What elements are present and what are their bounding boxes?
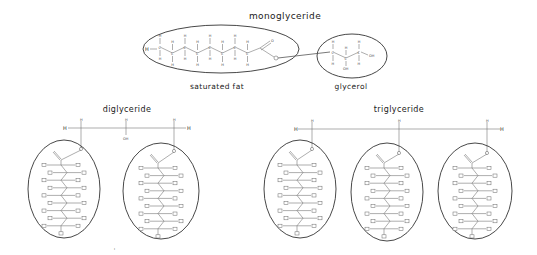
hydrogen-box — [139, 197, 143, 200]
backbone-h-left: H — [63, 125, 67, 131]
hydrogen-box — [284, 186, 288, 189]
hydrogen-box — [365, 197, 369, 200]
glycerol-label: glycerol — [335, 82, 368, 91]
hydrogen-box — [82, 186, 86, 189]
monoglyceride-title: monoglyceride — [249, 11, 321, 21]
hydrogen-box — [487, 166, 491, 169]
hydrogen-box — [453, 166, 457, 169]
glyceride-diagram: monoglyceride HCHHCHHCHHCHHCHHCHHCHHCHHO… — [0, 0, 537, 255]
hydrogen-box — [399, 197, 403, 200]
hydrogen-box — [459, 204, 463, 207]
hydrogen-box — [399, 166, 403, 169]
hydrogen-box — [82, 217, 86, 220]
hydrogen-box — [453, 197, 457, 200]
atom-h: H — [184, 34, 187, 38]
hydrogen-box — [42, 209, 46, 212]
triglyceride-title: triglyceride — [374, 105, 424, 114]
hydrogen-box — [453, 182, 457, 185]
atom-o: O — [271, 39, 274, 43]
atom-h: H — [171, 63, 174, 67]
fatty-acid-chain — [123, 143, 199, 239]
atom-h: H — [171, 40, 174, 44]
hydrogen-box — [76, 224, 80, 227]
backbone-h-top: H — [80, 118, 83, 122]
hydrogen-box — [48, 217, 52, 220]
hydrogen-box — [48, 201, 52, 204]
hydrogen-box — [318, 171, 322, 174]
hydrogen-box — [42, 194, 46, 197]
backbone-h-top: H — [173, 118, 176, 122]
stray-mark: ı — [114, 247, 115, 251]
atom-h: H — [246, 40, 249, 44]
hydrogen-box — [48, 171, 52, 174]
diglyceride-title: diglyceride — [103, 105, 152, 114]
atom-h: H — [358, 62, 361, 66]
hydrogen-box — [399, 227, 403, 230]
hydrogen-box — [179, 220, 183, 223]
backbone-oh: OH — [123, 137, 129, 141]
atom-h: H — [159, 34, 162, 38]
backbone-h-top: H — [125, 118, 128, 122]
backbone-h-top: H — [486, 119, 489, 123]
hydrogen-box — [459, 220, 463, 223]
hydrogen-box — [295, 232, 299, 235]
hydrogen-box — [173, 212, 177, 215]
hydrogen-box — [48, 186, 52, 189]
atom-h: H — [196, 40, 199, 44]
atom-c: C — [221, 52, 224, 56]
hydrogen-box — [405, 189, 409, 192]
atom-h: H — [196, 63, 199, 67]
atom-oh: OH — [369, 54, 375, 58]
hydrogen-box — [405, 174, 409, 177]
hydrogen-box — [284, 201, 288, 204]
atom-h: H — [345, 46, 348, 50]
hydrogen-box — [284, 171, 288, 174]
hydrogen-box — [405, 220, 409, 223]
triglyceride-group: triglyceride H H H H H — [264, 105, 512, 241]
hydrogen-box — [82, 201, 86, 204]
monoglyceride-group: monoglyceride HCHHCHHCHHCHHCHHCHHCHHCHHO… — [143, 11, 387, 91]
hydrogen-box — [365, 182, 369, 185]
backbone-h-top: H — [398, 119, 401, 123]
hydrogen-box — [42, 163, 46, 166]
diglyceride-group: diglyceride H H OH H H H ı — [28, 105, 199, 251]
backbone-h-top: H — [311, 119, 314, 123]
saturated-fat-chain: HCHHCHHCHHCHHCHHCHHCHHCHHO — [145, 34, 278, 67]
atom-h: H — [234, 57, 237, 61]
hydrogen-box — [278, 179, 282, 182]
atom-h: H — [145, 46, 149, 52]
atom-c: C — [345, 57, 348, 61]
hydrogen-box — [487, 182, 491, 185]
hydrogen-box — [76, 194, 80, 197]
hydrogen-box — [405, 204, 409, 207]
hydrogen-box — [487, 212, 491, 215]
diglyceride-chains — [28, 140, 199, 239]
hydrogen-box — [459, 189, 463, 192]
hydrogen-box — [82, 171, 86, 174]
hydrogen-box — [76, 163, 80, 166]
fatty-acid-chain — [264, 140, 336, 238]
hydrogen-box — [173, 166, 177, 169]
hydrogen-box — [365, 227, 369, 230]
atom-h: H — [159, 57, 162, 61]
hydrogen-box — [278, 194, 282, 197]
hydrogen-box — [145, 204, 149, 207]
backbone-h-right: H — [187, 125, 191, 131]
hydrogen-box — [453, 212, 457, 215]
hydrogen-box — [371, 204, 375, 207]
backbone-h-left: H — [294, 126, 298, 132]
fatty-acid-ellipse — [351, 143, 423, 241]
hydrogen-box — [371, 189, 375, 192]
atom-h: H — [246, 63, 249, 67]
hydrogen-box — [173, 197, 177, 200]
triglyceride-chains — [264, 140, 512, 241]
hydrogen-box — [487, 227, 491, 230]
hydrogen-box — [278, 209, 282, 212]
hydrogen-box — [139, 212, 143, 215]
hydrogen-box — [493, 174, 497, 177]
hydrogen-box — [139, 182, 143, 185]
atom-h: H — [234, 34, 237, 38]
hydrogen-box — [318, 186, 322, 189]
fatty-acid-ellipse — [28, 140, 100, 238]
fatty-acid-chain — [28, 140, 100, 238]
